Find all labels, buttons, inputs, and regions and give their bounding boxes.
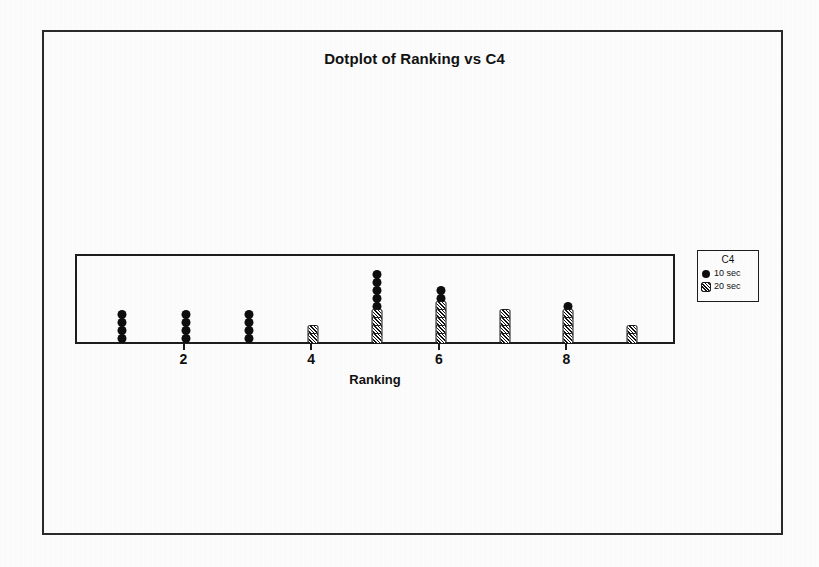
legend-entries: 10 sec20 sec bbox=[702, 267, 754, 293]
legend-item-label: 10 sec bbox=[714, 268, 741, 279]
x-axis-title: Ranking bbox=[75, 372, 675, 387]
dot-stack bbox=[117, 310, 126, 342]
x-tick-mark bbox=[438, 344, 440, 350]
dot-stack bbox=[245, 310, 254, 342]
x-tick-label: 2 bbox=[180, 351, 188, 367]
x-tick-label: 8 bbox=[563, 351, 571, 367]
hatched-square-marker-icon bbox=[702, 283, 710, 291]
dot-stack bbox=[564, 302, 573, 342]
dot-stack bbox=[500, 310, 509, 342]
dot-stack bbox=[628, 326, 637, 342]
x-tick-label: 6 bbox=[435, 351, 443, 367]
dot-stack bbox=[309, 326, 318, 342]
legend-item: 10 sec bbox=[702, 267, 754, 280]
dot-marker-20sec bbox=[628, 334, 637, 343]
dot-marker-10sec bbox=[117, 334, 126, 343]
dot-marker-20sec bbox=[564, 334, 573, 343]
dot-stack bbox=[181, 310, 190, 342]
legend-item-label: 20 sec bbox=[714, 281, 741, 292]
x-tick-mark bbox=[183, 344, 185, 350]
legend: C4 10 sec20 sec bbox=[697, 250, 759, 302]
x-tick-mark bbox=[565, 344, 567, 350]
figure-frame: Dotplot of Ranking vs C4 Ranking 2468 C4… bbox=[42, 30, 783, 535]
circle-marker-icon bbox=[702, 270, 710, 278]
dot-marker-20sec bbox=[373, 334, 382, 343]
legend-title: C4 bbox=[702, 254, 754, 266]
dot-marker-10sec bbox=[245, 334, 254, 343]
chart-title: Dotplot of Ranking vs C4 bbox=[44, 50, 785, 67]
legend-item: 20 sec bbox=[702, 280, 754, 293]
dot-stack bbox=[373, 270, 382, 342]
dot-plot-layer bbox=[77, 256, 673, 342]
dot-marker-20sec bbox=[436, 334, 445, 343]
dot-marker-20sec bbox=[500, 334, 509, 343]
dot-marker-20sec bbox=[309, 334, 318, 343]
dot-marker-10sec bbox=[181, 334, 190, 343]
dot-stack bbox=[436, 286, 445, 342]
x-tick-label: 4 bbox=[307, 351, 315, 367]
x-tick-mark bbox=[310, 344, 312, 350]
plot-panel bbox=[75, 254, 675, 344]
x-axis: Ranking 2468 bbox=[75, 344, 675, 404]
